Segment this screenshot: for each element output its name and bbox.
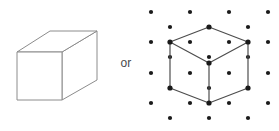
cube-edge xyxy=(209,88,248,103)
lattice-dot xyxy=(149,40,153,44)
lattice-dot xyxy=(266,101,270,105)
lattice-dot xyxy=(188,71,192,75)
lattice-dot xyxy=(149,101,153,105)
lattice-dot xyxy=(188,10,192,14)
lattice-dot xyxy=(266,10,270,14)
solid-cube-group xyxy=(17,31,97,100)
lattice-dot xyxy=(149,10,153,14)
cube-vertex-dot-upper-left xyxy=(167,39,172,44)
lattice-dot xyxy=(227,10,231,14)
cube-edge xyxy=(209,42,248,63)
lattice-dot xyxy=(266,40,270,44)
cube-edge xyxy=(170,27,209,42)
lattice-dot xyxy=(168,25,172,29)
lattice-dot xyxy=(227,101,231,105)
lattice-cube-svg xyxy=(139,0,279,131)
lattice-dot xyxy=(246,25,250,29)
solid-cube-svg xyxy=(0,0,112,131)
or-connector-label: or xyxy=(113,56,139,70)
lattice-dot xyxy=(266,71,270,75)
cube-vertex-dot-center xyxy=(206,60,211,65)
cube-vertex-dot-bottom xyxy=(206,100,211,105)
cube-vertex-dot-lower-right xyxy=(245,85,250,90)
cube-edge xyxy=(209,27,248,42)
lattice-dot xyxy=(227,71,231,75)
lattice-dot xyxy=(188,40,192,44)
cube-front-face xyxy=(17,52,62,100)
cube-vertex-dot-top xyxy=(206,24,211,29)
cube-edge xyxy=(170,88,209,103)
figure-canvas: or xyxy=(0,0,279,131)
lattice-dot xyxy=(207,116,211,120)
solid-cube-figure xyxy=(0,0,112,131)
lattice-dot xyxy=(207,55,211,59)
lattice-dot xyxy=(246,116,250,120)
lattice-dot xyxy=(227,40,231,44)
lattice-dot xyxy=(188,101,192,105)
cube-vertex-dot-upper-right xyxy=(245,39,250,44)
cube-vertex-dot-lower-left xyxy=(167,85,172,90)
lattice-dot xyxy=(149,71,153,75)
lattice-cube-figure xyxy=(139,0,279,131)
cube-edge xyxy=(170,42,209,63)
lattice-dot xyxy=(168,116,172,120)
